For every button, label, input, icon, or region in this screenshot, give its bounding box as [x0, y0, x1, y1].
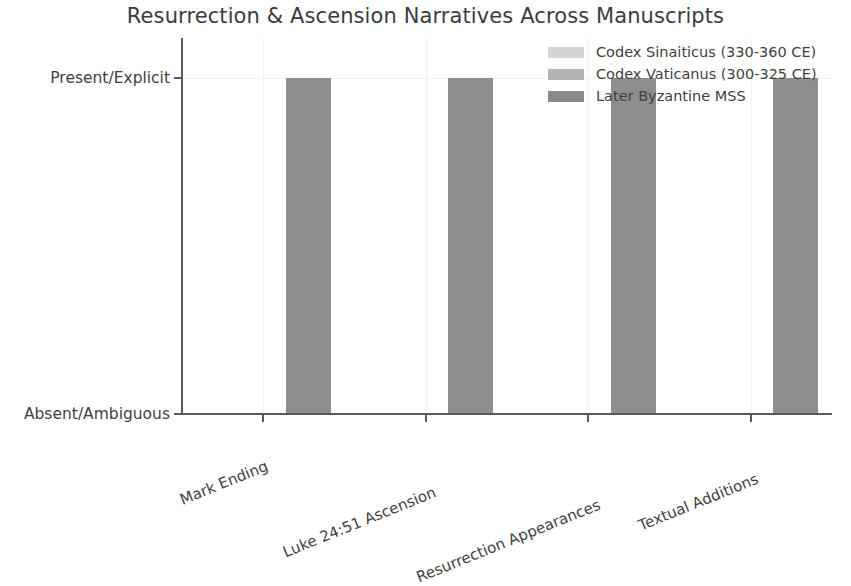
bar [448, 78, 493, 414]
legend-label: Codex Vaticanus (300-325 CE) [596, 67, 817, 82]
legend-swatch-icon [548, 69, 584, 80]
y-tick-label: Present/Explicit [0, 69, 170, 87]
x-tick-label-text: Luke 24:51 Ascension [280, 483, 438, 561]
chart-legend: Codex Sinaiticus (330-360 CE)Codex Vatic… [548, 41, 838, 107]
bar [611, 78, 656, 414]
y-tick-mark [174, 77, 182, 79]
legend-item[interactable]: Codex Vaticanus (300-325 CE) [548, 63, 838, 85]
x-tick-mark [750, 415, 752, 422]
bar [286, 78, 331, 414]
x-tick-label-text: Resurrection Appearances [414, 496, 603, 586]
y-tick-label: Absent/Ambiguous [0, 405, 170, 423]
x-tick-label: Luke 24:51 Ascension [432, 422, 590, 500]
x-tick-mark [262, 415, 264, 422]
gridline-vertical [426, 38, 427, 414]
bar [773, 78, 818, 414]
y-axis-spine [181, 38, 183, 415]
x-tick-label: Mark Ending [264, 422, 357, 474]
x-tick-label-text: Mark Ending [177, 457, 270, 509]
legend-label: Codex Sinaiticus (330-360 CE) [596, 45, 816, 60]
legend-item[interactable]: Later Byzantine MSS [548, 85, 838, 107]
x-tick-mark [587, 415, 589, 422]
legend-label: Later Byzantine MSS [596, 89, 746, 104]
legend-swatch-icon [548, 47, 584, 58]
chart-title: Resurrection & Ascension Narratives Acro… [0, 4, 851, 28]
legend-swatch-icon [548, 91, 584, 102]
gridline-vertical [263, 38, 264, 414]
x-tick-mark [425, 415, 427, 422]
legend-item[interactable]: Codex Sinaiticus (330-360 CE) [548, 41, 838, 63]
y-tick-mark [174, 413, 182, 415]
x-axis-spine [181, 413, 832, 415]
